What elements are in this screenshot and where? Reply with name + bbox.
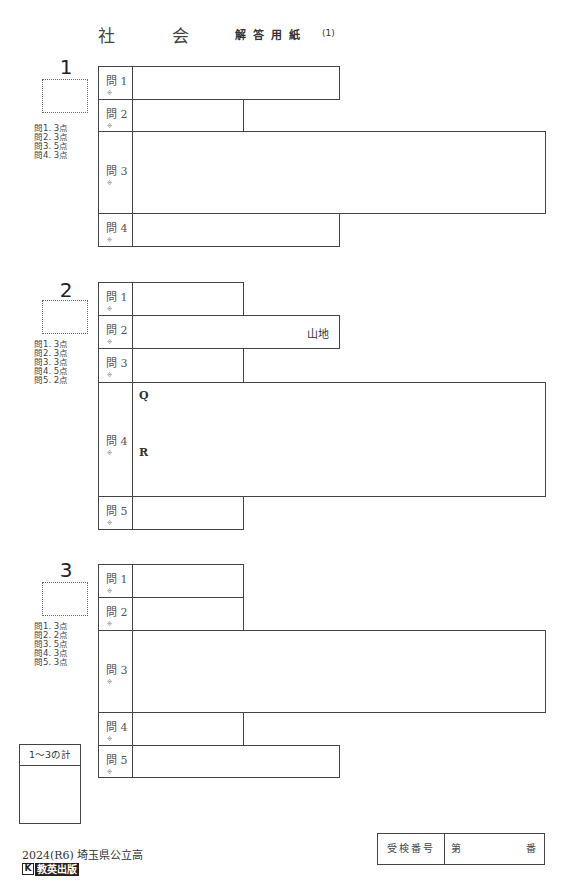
suffix-label: 山地	[307, 325, 329, 341]
s3-q5-answer-row[interactable]: 問 5 ※	[98, 745, 340, 778]
total-score-box[interactable]: 1～3の計	[19, 744, 81, 824]
number-suffix: 番	[526, 834, 536, 864]
question-label: 問 5 ※	[99, 746, 133, 777]
s3-q4-answer-row[interactable]: 問 4 ※	[98, 712, 244, 746]
asterisk-icon: ※	[107, 449, 112, 456]
question-label: 問 4 ※	[99, 214, 133, 246]
sub-label-r: R	[139, 446, 148, 459]
asterisk-icon: ※	[107, 179, 112, 186]
section-3-points: 問1. 3点 問2. 2点 問3. 5点 問4. 3点 問5. 3点	[34, 622, 68, 667]
question-label: 問 1 ※	[99, 565, 133, 597]
asterisk-icon: ※	[107, 678, 112, 685]
sub-label-q: Q	[139, 389, 149, 402]
asterisk-icon: ※	[107, 236, 112, 243]
page-number: (1)	[322, 28, 335, 38]
s1-q2-answer-row[interactable]: 問 2 ※	[98, 99, 244, 132]
asterisk-icon: ※	[107, 305, 112, 312]
section-3-number: 3	[43, 558, 89, 582]
asterisk-icon: ※	[107, 735, 112, 742]
section-1-number: 1	[43, 55, 89, 79]
s1-q3-answer-row[interactable]: 問 3 ※	[98, 131, 546, 214]
s2-q5-answer-row[interactable]: 問 5 ※	[98, 496, 244, 530]
form-title: 解答用紙	[235, 26, 307, 42]
s3-q2-answer-row[interactable]: 問 2 ※	[98, 597, 244, 631]
question-label: 問 3 ※	[99, 631, 133, 712]
examinee-number-label: 受検番号	[378, 834, 445, 864]
s3-q3-answer-row[interactable]: 問 3 ※	[98, 630, 546, 713]
asterisk-icon: ※	[107, 371, 112, 378]
publisher-logo: K 教英出版	[22, 862, 79, 876]
s3-q1-answer-row[interactable]: 問 1 ※	[98, 564, 244, 598]
asterisk-icon: ※	[107, 122, 112, 129]
question-label: 問 4 ※	[99, 713, 133, 745]
question-label: 問 3 ※	[99, 132, 133, 213]
total-score-label: 1～3の計	[20, 745, 80, 766]
asterisk-icon: ※	[107, 519, 112, 526]
s1-q1-answer-row[interactable]: 問 1 ※	[98, 66, 340, 100]
question-label: 問 5 ※	[99, 497, 133, 529]
publisher-name: 教英出版	[35, 863, 79, 876]
s1-q4-answer-row[interactable]: 問 4 ※	[98, 213, 340, 247]
section-3-score-box[interactable]	[42, 582, 88, 616]
subject-char-2: 会	[172, 22, 189, 47]
s2-q4-answer-row[interactable]: 問 4 ※ Q R	[98, 382, 546, 497]
section-2-number: 2	[43, 278, 89, 302]
year-school-label: 2024(R6) 埼玉県公立高	[22, 846, 143, 862]
question-label: 問 2 ※	[99, 598, 133, 630]
section-1-points: 問1. 3点 問2. 3点 問3. 5点 問4. 3点	[34, 124, 68, 160]
examinee-number-field[interactable]: 第 番	[445, 834, 544, 864]
s2-q2-answer-row[interactable]: 問 2 ※ 山地	[98, 315, 340, 349]
asterisk-icon: ※	[107, 338, 112, 345]
number-prefix: 第	[451, 834, 461, 864]
question-label: 問 4 ※	[99, 383, 133, 496]
asterisk-icon: ※	[107, 587, 112, 594]
asterisk-icon: ※	[107, 89, 112, 96]
k-logo-icon: K	[22, 863, 34, 875]
question-label: 問 1 ※	[99, 67, 133, 99]
examinee-number-box: 受検番号 第 番	[377, 833, 545, 865]
question-label: 問 2 ※	[99, 100, 133, 131]
section-1-score-box[interactable]	[42, 79, 88, 113]
subject-char-1: 社	[98, 22, 115, 47]
question-label: 問 1 ※	[99, 283, 133, 315]
asterisk-icon: ※	[107, 620, 112, 627]
section-2-score-box[interactable]	[42, 300, 88, 334]
s2-q3-answer-row[interactable]: 問 3 ※	[98, 348, 244, 383]
question-label: 問 2 ※	[99, 316, 133, 348]
asterisk-icon: ※	[107, 768, 112, 775]
section-2-points: 問1. 3点 問2. 3点 問3. 3点 問4. 5点 問5. 2点	[34, 340, 68, 385]
question-label: 問 3 ※	[99, 349, 133, 382]
s2-q1-answer-row[interactable]: 問 1 ※	[98, 282, 244, 316]
